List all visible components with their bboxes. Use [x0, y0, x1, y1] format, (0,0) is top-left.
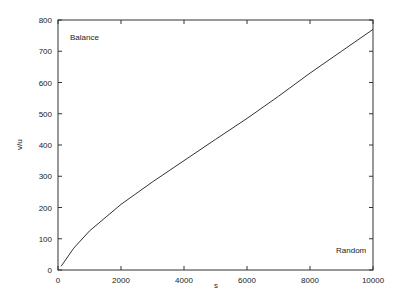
x-tick-label: 0	[56, 276, 61, 285]
y-tick-label: 0	[48, 266, 53, 275]
x-tick-label: 6000	[238, 276, 256, 285]
data-line	[61, 29, 373, 266]
x-axis-label: s	[214, 281, 218, 290]
y-axis-label: v/u	[15, 139, 24, 150]
chart: 0200040006000800010000010020030040050060…	[0, 0, 404, 300]
y-tick-label: 200	[39, 204, 53, 213]
annotation-random: Random	[336, 246, 367, 255]
x-tick-label: 10000	[362, 276, 385, 285]
x-tick-label: 4000	[175, 276, 193, 285]
y-tick-label: 300	[39, 172, 53, 181]
axes: 0200040006000800010000010020030040050060…	[39, 16, 385, 285]
plot-area: 0200040006000800010000010020030040050060…	[0, 0, 404, 300]
x-tick-label: 8000	[301, 276, 319, 285]
y-tick-label: 500	[39, 110, 53, 119]
annotation-balance: Balance	[70, 33, 99, 42]
x-tick-label: 2000	[112, 276, 130, 285]
y-tick-label: 400	[39, 141, 53, 150]
y-tick-label: 800	[39, 16, 53, 25]
y-tick-label: 600	[39, 79, 53, 88]
plot-frame	[58, 20, 373, 270]
y-tick-label: 700	[39, 47, 53, 56]
y-tick-label: 100	[39, 235, 53, 244]
